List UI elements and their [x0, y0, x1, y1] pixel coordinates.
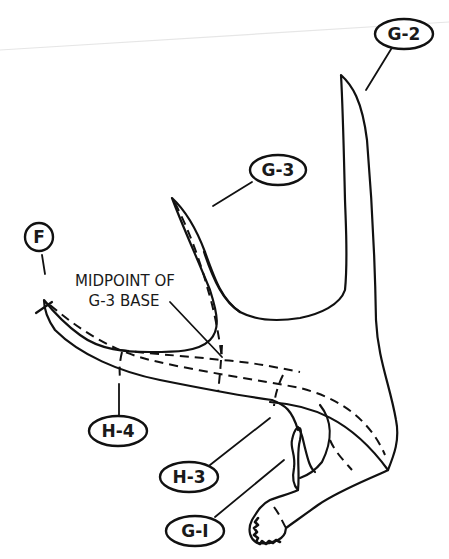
- label-g1-text: G-I: [181, 521, 208, 541]
- label-h3-text: H-3: [172, 467, 205, 487]
- label-g3-text: G-3: [262, 160, 295, 180]
- label-g2: G-2: [375, 19, 433, 49]
- label-f-text: F: [33, 227, 45, 247]
- annotation-midpoint: MIDPOINT OF G-3 BASE: [75, 272, 175, 310]
- label-h4-text: H-4: [101, 421, 134, 441]
- annotation-line-2: G-3 BASE: [89, 292, 160, 310]
- antler-diagram: G-2 G-3 F MIDPOINT OF G-3 BASE H-4 H-3 G…: [0, 0, 449, 559]
- label-h4: H-4: [89, 416, 147, 446]
- label-f: F: [25, 223, 53, 251]
- label-h3: H-3: [160, 462, 218, 492]
- label-g2-text: G-2: [388, 24, 421, 44]
- annotation-line-1: MIDPOINT OF: [75, 272, 175, 290]
- label-g1: G-I: [166, 516, 224, 546]
- label-g3: G-3: [250, 155, 306, 185]
